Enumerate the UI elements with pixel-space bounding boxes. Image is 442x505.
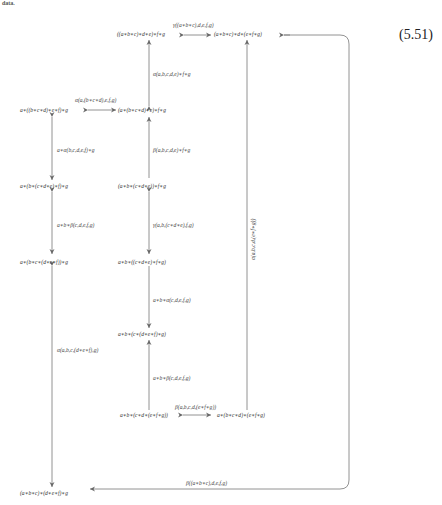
label-beta-abcde: β(a,b,c,d,e)∗f∗g — [153, 147, 190, 154]
node-n11: a∗(b∗c∗d)∗(e∗f∗g) — [217, 412, 265, 419]
node-n1: ((a∗b∗c)∗d∗e)∗f∗g — [117, 31, 165, 38]
label-a-alpha-bcdef: a∗α(b,c,d,e,f)∗g — [57, 147, 95, 154]
node-n2: (a∗b∗c)∗d∗(e∗f∗g) — [214, 31, 262, 38]
node-n12: (a∗b∗c)∗(d∗e∗f)∗g — [20, 490, 68, 497]
label-beta-bottom: β((a∗b∗c),d,e,f,g) — [186, 480, 227, 487]
label-gamma-ab-cde: γ(a,b,(c∗d∗e),f,g) — [153, 222, 194, 229]
node-n10: a∗b∗(c∗d∗(e∗f∗g)) — [120, 412, 168, 419]
label-ab-beta-cdefg: a∗b∗β(c,d,e,f,g) — [57, 222, 94, 229]
node-n7: a∗(b∗c∗(d∗e∗f))∗g — [20, 259, 68, 266]
label-beta-abcd-efg: β(a,b,c,d,(e∗f∗g)) — [175, 404, 216, 411]
node-n6: (a∗b∗(c∗d∗e))∗f∗g — [118, 183, 166, 190]
node-n9: a∗b∗(c∗(d∗e∗f)∗g) — [118, 331, 166, 338]
label-gamma-top: γ((a∗b∗c),d,e,f,g) — [173, 22, 214, 29]
node-n3: a∗((b∗c∗d)∗e∗f)∗g — [20, 107, 68, 114]
node-n8: a∗b∗((c∗d∗e)∗f∗g) — [118, 259, 166, 266]
label-alpha-a-bcd: α(a,(b∗c∗d),e,f,g) — [75, 97, 116, 104]
node-n4: (a∗(b∗c∗d)∗e)∗f∗g — [118, 107, 166, 114]
diagram-arrows — [0, 0, 442, 505]
label-alpha-abc-def: α(a,b,c,(d∗e∗f),g) — [57, 347, 98, 354]
node-n5: a∗(b∗(c∗d∗e)∗f)∗g — [20, 183, 68, 190]
label-alpha-abcde: α(a,b,c,d,e)∗f∗g — [153, 71, 191, 78]
label-ab-alpha-cdefg: a∗b∗α(c,d,e,f,g) — [153, 297, 191, 304]
label-ab-beta-2: a∗b∗β(c,d,e,f,g) — [153, 375, 190, 382]
label-alpha-abcd-efg: α(a,b,c,d,(e∗f∗g)) — [250, 219, 256, 260]
